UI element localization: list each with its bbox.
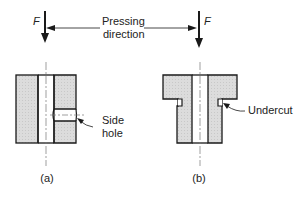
undercut-leader <box>227 106 245 111</box>
arrow-left-icon <box>46 25 55 31</box>
side-hole-label-line1: Side <box>102 114 124 126</box>
pressing-label-line1: Pressing <box>102 15 145 27</box>
leader-arrow-icon <box>223 103 230 109</box>
arrow-down-icon <box>41 33 49 43</box>
part-a-left-wall <box>16 75 38 143</box>
force-label-a: F <box>33 15 41 27</box>
pressing-direction-callout: Pressing direction <box>46 15 197 40</box>
arrow-down-icon <box>195 38 203 48</box>
part-b: Undercut (b) <box>163 62 293 184</box>
arrow-right-icon <box>188 25 197 31</box>
part-a-right-wall-lower <box>54 121 76 143</box>
pressing-label-line2: direction <box>103 28 145 40</box>
force-label-b: F <box>204 15 212 27</box>
part-b-left-wall <box>163 75 192 143</box>
caption-a: (a) <box>40 172 53 184</box>
side-hole-label-line2: hole <box>102 127 123 139</box>
force-arrow-b: F <box>195 11 212 48</box>
part-a: Side hole (a) <box>16 62 124 184</box>
undercut-label: Undercut <box>248 104 293 116</box>
part-a-right-wall-upper <box>54 75 76 109</box>
force-arrow-a: F <box>33 11 49 43</box>
pressing-direction-diagram: F F Pressing direction Sid <box>0 0 307 197</box>
caption-b: (b) <box>192 172 205 184</box>
